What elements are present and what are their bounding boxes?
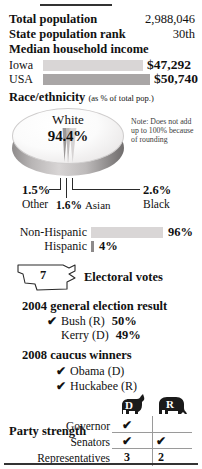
total-population-value: 2,988,046 [145, 12, 195, 27]
svg-text:D: D [125, 399, 133, 411]
race-other-value: 1.5% [22, 183, 50, 198]
caucus-name-huckabee: Huckabee (R) [70, 379, 137, 394]
electoral-votes-label: Electoral votes [84, 270, 163, 285]
caucus-name-obama: Obama (D) [70, 364, 124, 379]
state-fact-panel: Total population 2,988,046 State populat… [0, 0, 202, 469]
income-bar-iowa-fill [43, 60, 143, 71]
candidate-row-bush: ✔ Bush (R) 50% [47, 314, 137, 329]
party-row-governor-label: Governor [4, 420, 110, 432]
hispanic-bar-non: Non-Hispanic 96% [9, 225, 195, 240]
leader-line-other-h [49, 189, 61, 190]
pie-white-value: 94.4% [18, 128, 118, 145]
top-divider [40, 4, 112, 6]
hispanic-non-label: Non-Hispanic [9, 225, 87, 240]
governor-d-check: ✔ [110, 418, 144, 433]
race-asian-value: 1.6% [56, 199, 82, 211]
caucus-check-icon-huckabee: ✔ [56, 379, 70, 394]
bottom-divider [4, 463, 198, 465]
candidate-name-bush: Bush (R) [61, 314, 105, 329]
candidate-pct-bush: 50% [112, 314, 137, 329]
rounding-note: Note: Does not add up to 100% because of… [131, 117, 197, 145]
hispanic-bar-his: Hispanic 4% [9, 239, 195, 254]
party-row-representatives-label: Representatives [4, 452, 110, 464]
income-bar-usa-value: $50,740 [154, 71, 198, 87]
general-election-heading: 2004 general election result [22, 299, 167, 314]
leader-line-black-h [72, 189, 140, 190]
caucus-row-obama: ✔ Obama (D) [56, 364, 124, 379]
party-row-senators: Senators ✔ ✔ [4, 434, 178, 449]
hispanic-non-value: 96% [168, 225, 193, 240]
race-pie-chart: White 94.4% [6, 104, 131, 184]
population-rank-row: State population rank 30th [9, 27, 195, 42]
income-bar-usa-label: USA [9, 72, 43, 87]
race-ethnicity-subtitle: (as % of total pop.) [88, 93, 153, 103]
population-rank-value: 30th [173, 27, 195, 42]
candidate-pct-kerry: 49% [116, 328, 141, 343]
electoral-votes-count: 7 [17, 268, 69, 283]
income-bar-usa: USA $50,740 [9, 71, 198, 87]
senators-d-check: ✔ [110, 434, 144, 449]
race-callout-black: 2.6% Black [143, 183, 171, 210]
svg-text:R: R [166, 398, 175, 410]
race-asian-label: Asian [85, 199, 111, 211]
leader-line-asian-v [66, 178, 67, 198]
population-rank-label: State population rank [9, 27, 126, 42]
total-population-row: Total population 2,988,046 [9, 12, 195, 27]
race-black-label: Black [143, 198, 171, 210]
caucus-row-huckabee: ✔ Huckabee (R) [56, 379, 137, 394]
income-bar-usa-fill [43, 74, 150, 85]
hispanic-his-label: Hispanic [9, 239, 87, 254]
race-callout-other: 1.5% Other [22, 183, 50, 210]
party-row-senators-label: Senators [4, 436, 110, 448]
candidate-name-kerry: Kerry (D) [61, 328, 109, 343]
hispanic-his-fill [91, 241, 94, 252]
candidate-row-kerry: Kerry (D) 49% [47, 328, 141, 343]
senators-r-check: ✔ [144, 434, 178, 449]
caucus-check-icon-obama: ✔ [56, 364, 70, 379]
winner-check-icon: ✔ [47, 314, 61, 329]
democrat-donkey-icon: D [118, 394, 152, 415]
republican-elephant-icon: R [156, 394, 190, 415]
median-income-heading: Median household income [9, 42, 149, 57]
caucus-heading: 2008 caucus winners [22, 348, 132, 363]
race-ethnicity-heading: Race/ethnicity (as % of total pop.) [9, 90, 154, 105]
leader-line-black-v [72, 178, 73, 189]
pie-white-label: White [18, 112, 118, 128]
pie-white-caption: White 94.4% [18, 112, 118, 145]
race-other-label: Other [22, 198, 50, 210]
total-population-label: Total population [9, 12, 97, 27]
party-row-governor: Governor ✔ [4, 418, 178, 433]
race-black-value: 2.6% [143, 183, 171, 198]
hispanic-non-fill [91, 227, 163, 238]
race-callout-asian: 1.6% Asian [56, 199, 111, 211]
hispanic-his-value: 4% [99, 239, 118, 254]
